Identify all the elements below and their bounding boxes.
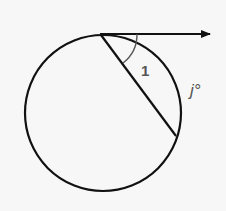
angle-label: 1 [141, 62, 149, 79]
geometry-diagram: 1 j° [0, 0, 226, 211]
arc-label: j° [188, 81, 201, 100]
chord [101, 35, 176, 136]
